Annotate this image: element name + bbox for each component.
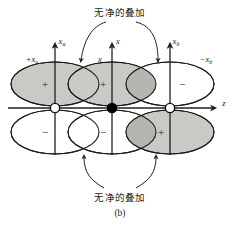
sign-left-lower: − [42,126,48,138]
sign-center-lower: − [100,126,106,138]
panel-label: (b) [114,208,125,219]
annotation-top-text: 无净的叠加 [94,7,146,18]
orbital-label-x: x [97,54,102,64]
nucleus-center [107,103,116,112]
axis-label-z: z [221,98,226,108]
orbital-overlap-figure: + + − − − + xa x xb z +xa x [0,0,238,229]
annotation-bottom-text: 无净的叠加 [94,192,146,203]
nucleus-a [50,103,59,112]
sign-right-lower: + [158,126,164,138]
axis-label-x: x [115,36,120,46]
nucleus-b [165,103,174,112]
sign-right-upper: − [179,78,185,90]
sign-center-upper: + [100,78,106,90]
figure-canvas: + + − − − + xa x xb z +xa x [0,0,238,229]
sign-left-upper: + [42,78,48,90]
